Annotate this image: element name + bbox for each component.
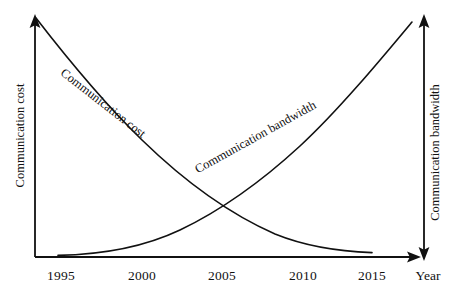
x-tick-label-2010: 2010 (289, 268, 317, 284)
x-tick-label-2000: 2000 (128, 268, 156, 284)
x-tick-label-2005: 2005 (208, 268, 236, 284)
x-axis-title: Year (416, 268, 441, 284)
communication-cost-bandwidth-chart: 1995 2000 2005 2010 2015 Year Communicat… (0, 0, 453, 304)
communication-bandwidth-curve (58, 22, 412, 255)
x-tick-label-1995: 1995 (47, 268, 75, 284)
x-tick-label-2015: 2015 (358, 268, 386, 284)
y-axis-left-title: Communication cost (13, 76, 28, 196)
y-axis-right-title: Communication bandwidth (428, 68, 443, 238)
